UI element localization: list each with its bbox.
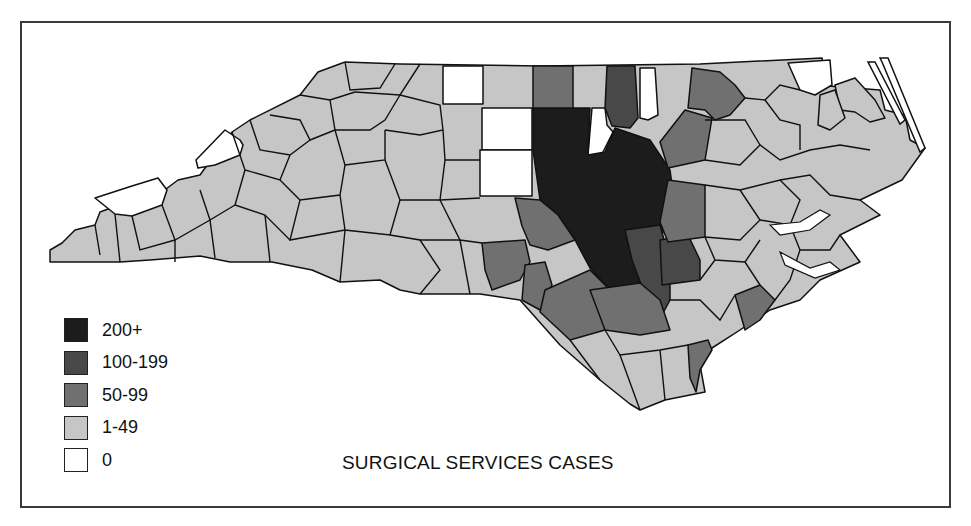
- legend-swatch: [64, 416, 88, 440]
- legend-item-1-49: 1-49: [64, 412, 168, 445]
- county-50-99: [660, 180, 705, 242]
- county-zero: [480, 150, 532, 196]
- map-title: SURGICAL SERVICES CASES: [342, 452, 614, 474]
- legend-item-200-plus: 200+: [64, 314, 168, 347]
- legend-label: 1-49: [102, 417, 138, 438]
- county-50-99: [533, 66, 573, 108]
- legend-swatch: [64, 351, 88, 375]
- legend-swatch: [64, 318, 88, 342]
- legend-item-50-99: 50-99: [64, 379, 168, 412]
- county-zero: [443, 66, 483, 104]
- legend: 200+ 100-199 50-99 1-49 0: [64, 314, 168, 477]
- legend-label: 200+: [102, 320, 143, 341]
- legend-label: 50-99: [102, 385, 148, 406]
- legend-item-100-199: 100-199: [64, 347, 168, 380]
- legend-label: 100-199: [102, 352, 168, 373]
- county-zero: [640, 68, 658, 120]
- county-zero: [482, 108, 532, 150]
- legend-swatch: [64, 383, 88, 407]
- legend-label: 0: [102, 450, 112, 471]
- legend-item-0: 0: [64, 444, 168, 477]
- legend-swatch: [64, 448, 88, 472]
- county-100-199: [605, 66, 638, 128]
